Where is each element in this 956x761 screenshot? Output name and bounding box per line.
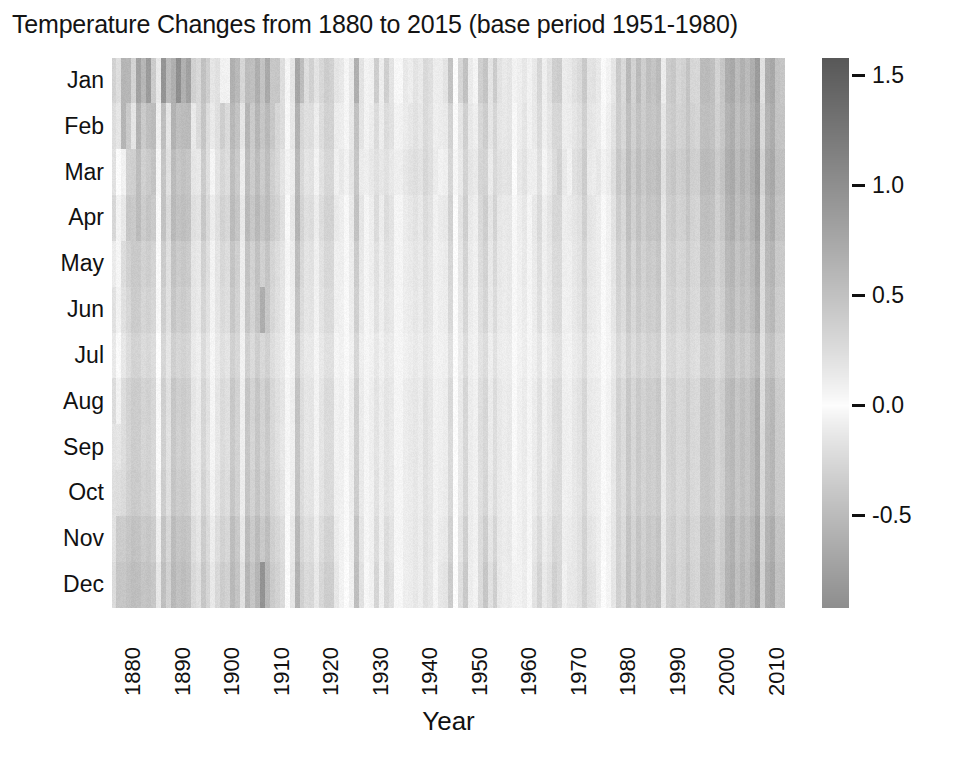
y-tick-label-apr: Apr bbox=[0, 206, 104, 229]
heatmap-plot-area bbox=[112, 58, 785, 608]
colorbar-tick-mark bbox=[852, 404, 865, 407]
y-tick-label-oct: Oct bbox=[0, 481, 104, 504]
x-tick-label-2000: 2000 bbox=[716, 647, 738, 696]
x-tick-label-1930: 1930 bbox=[370, 647, 392, 696]
colorbar-tick-label: 1.0 bbox=[872, 172, 904, 198]
y-tick-label-feb: Feb bbox=[0, 115, 104, 138]
x-axis-title: Year bbox=[112, 706, 785, 736]
temperature-heatmap-figure: Temperature Changes from 1880 to 2015 (b… bbox=[0, 0, 956, 761]
colorbar-tick-mark bbox=[852, 74, 865, 77]
x-tick-label-1880: 1880 bbox=[122, 647, 144, 696]
colorbar-tick-mark bbox=[852, 294, 865, 297]
y-tick-label-may: May bbox=[0, 252, 104, 275]
x-tick-label-1910: 1910 bbox=[271, 647, 293, 696]
x-axis-year-labels: 1880189019001910192019301940195019601970… bbox=[112, 612, 785, 702]
y-tick-label-nov: Nov bbox=[0, 527, 104, 550]
colorbar-tick-label: -0.5 bbox=[872, 502, 912, 528]
y-tick-label-jul: Jul bbox=[0, 344, 104, 367]
x-tick-label-1900: 1900 bbox=[221, 647, 243, 696]
x-tick-label-1920: 1920 bbox=[320, 647, 342, 696]
x-tick-label-1940: 1940 bbox=[419, 647, 441, 696]
x-tick-label-1960: 1960 bbox=[518, 647, 540, 696]
y-tick-label-jan: Jan bbox=[0, 69, 104, 92]
colorbar-tick-label: 0.0 bbox=[872, 392, 904, 418]
x-tick-label-1980: 1980 bbox=[617, 647, 639, 696]
colorbar-gradient bbox=[822, 58, 849, 608]
y-axis-month-labels: JanFebMarAprMayJunJulAugSepOctNovDec bbox=[0, 58, 104, 608]
y-tick-label-sep: Sep bbox=[0, 436, 104, 459]
x-tick-label-1890: 1890 bbox=[172, 647, 194, 696]
chart-title: Temperature Changes from 1880 to 2015 (b… bbox=[12, 9, 738, 39]
y-tick-label-dec: Dec bbox=[0, 573, 104, 596]
colorbar-tick-label: 1.5 bbox=[872, 62, 904, 88]
x-tick-label-1990: 1990 bbox=[667, 647, 689, 696]
y-tick-label-mar: Mar bbox=[0, 161, 104, 184]
x-tick-label-1970: 1970 bbox=[568, 647, 590, 696]
x-tick-label-2010: 2010 bbox=[766, 647, 788, 696]
colorbar-tick-label: 0.5 bbox=[872, 282, 904, 308]
colorbar bbox=[822, 58, 849, 608]
y-tick-label-aug: Aug bbox=[0, 390, 104, 413]
heatmap-cells bbox=[112, 58, 785, 608]
y-tick-label-jun: Jun bbox=[0, 298, 104, 321]
bottom-caption bbox=[0, 752, 956, 761]
colorbar-tick-mark bbox=[852, 184, 865, 187]
x-tick-label-1950: 1950 bbox=[469, 647, 491, 696]
colorbar-tick-mark bbox=[852, 514, 865, 517]
